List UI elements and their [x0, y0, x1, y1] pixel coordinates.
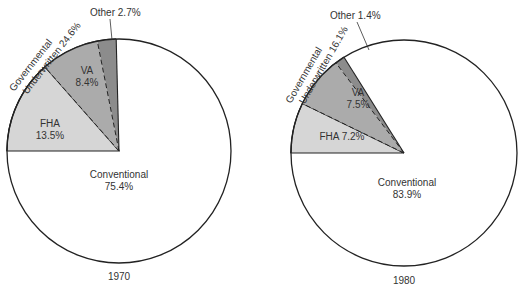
label-va-value-1970: 8.4% — [76, 77, 99, 88]
label-conventional-name-1970: Conventional — [90, 169, 148, 180]
leader-other-1980 — [357, 22, 369, 50]
label-fha-value-1970: 13.5% — [36, 130, 64, 141]
label-fha-1980: FHA 7.2% — [319, 131, 364, 142]
label-conventional-value-1970: 75.4% — [105, 181, 133, 192]
pie-charts-canvas: Conventional 75.4% FHA 13.5% VA 8.4% Oth… — [0, 0, 525, 289]
pie-1980: Conventional 83.9% FHA 7.2% VA 7.5% Othe… — [283, 10, 517, 286]
label-va-name-1970: VA — [81, 65, 94, 76]
leader-other-1970 — [110, 19, 112, 40]
label-fha-name-1970: FHA — [40, 118, 60, 129]
label-other-1970: Other 2.7% — [90, 7, 141, 18]
year-label-1970: 1970 — [108, 271, 131, 282]
label-conventional-name-1980: Conventional — [378, 177, 436, 188]
label-other-1980: Other 1.4% — [330, 10, 381, 21]
year-label-1980: 1980 — [393, 275, 416, 286]
label-va-value-1980: 7.5% — [347, 99, 370, 110]
label-conventional-value-1980: 83.9% — [393, 189, 421, 200]
label-va-name-1980: VA — [352, 87, 365, 98]
pie-1970: Conventional 75.4% FHA 13.5% VA 8.4% Oth… — [7, 7, 231, 282]
